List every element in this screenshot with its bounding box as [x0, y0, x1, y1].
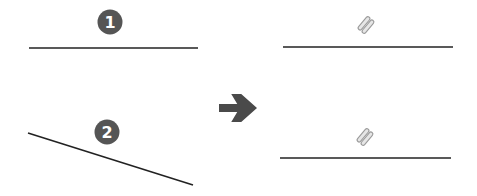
badge-number: 2	[101, 123, 112, 142]
number-badge: 2	[95, 120, 120, 145]
number-badge: 1	[98, 10, 123, 35]
horizontal-constraint-icon	[357, 16, 374, 34]
constraint-diagram: 12	[0, 0, 477, 196]
horizontal-constraint-icon	[356, 128, 373, 146]
badge-number: 1	[104, 13, 115, 32]
line-2: 2	[28, 120, 193, 186]
line-1-constrained	[283, 16, 453, 47]
line-2-constrained	[280, 128, 451, 158]
arrow-right-icon	[219, 94, 257, 122]
arrow-shape	[219, 94, 257, 122]
before-state: 12	[28, 10, 198, 186]
after-state	[280, 16, 453, 158]
line-1: 1	[29, 10, 198, 49]
